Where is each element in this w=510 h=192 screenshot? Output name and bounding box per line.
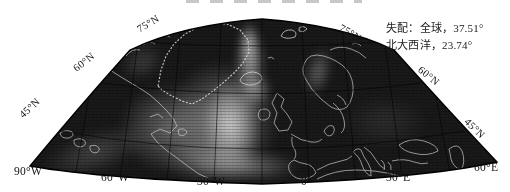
lon-label-30e: 30°E [386, 171, 410, 183]
lon-label-30w: 30°W [197, 175, 225, 187]
lon-label-90w: 90°W [14, 165, 42, 177]
lon-label-60e: 60°E [474, 161, 498, 173]
mismatch-global-line: 失配：全球，37.51° [386, 20, 510, 37]
mismatch-north-atlantic-line: 北大西洋，23.74° [386, 37, 510, 54]
mismatch-annotation: 失配：全球，37.51° 北大西洋，23.74° [386, 20, 510, 53]
figure-canvas: 75°N 60°N 45°N 75°N 60°N 45°N 90°W 60°W … [0, 0, 510, 192]
lon-label-60w: 60°W [101, 171, 129, 183]
lon-label-0: 0° [301, 175, 312, 187]
